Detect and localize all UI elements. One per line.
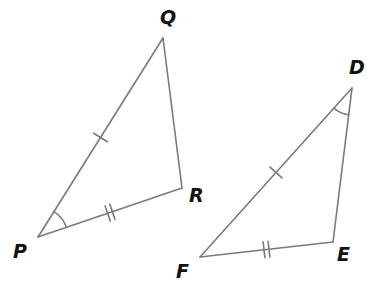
vertex-label-p: P — [13, 242, 27, 261]
angle-arc-P — [54, 212, 66, 228]
side-FE — [200, 242, 333, 257]
side-PR — [38, 188, 182, 237]
vertex-label-d: D — [349, 58, 365, 77]
tick-mark-FE-1 — [263, 242, 265, 258]
tick-mark-PQ-1 — [94, 133, 108, 142]
vertex-label-e: E — [337, 245, 350, 264]
triangle-def — [200, 88, 352, 258]
triangle-pqr — [38, 38, 182, 237]
side-QR — [163, 38, 182, 188]
geometry-figure — [0, 0, 386, 288]
vertex-label-r: R — [189, 186, 204, 205]
side-DE — [333, 88, 352, 242]
angle-arc-D — [334, 108, 349, 115]
vertex-label-f: F — [176, 262, 189, 281]
tick-mark-FE-2 — [268, 241, 270, 257]
vertex-label-q: Q — [160, 8, 176, 27]
diagram-canvas: PQRDEF — [0, 0, 386, 288]
